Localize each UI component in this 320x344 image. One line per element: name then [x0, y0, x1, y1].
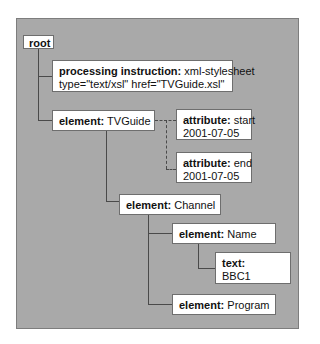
node-attr-start-kind: attribute:	[183, 114, 231, 126]
connector-name-trunk	[198, 243, 199, 269]
connector-tvguide-attr-end	[166, 169, 176, 170]
node-element-channel: element: Channel	[119, 194, 221, 215]
connector-root-tvguide	[38, 120, 52, 121]
node-attribute-start: attribute: start 2001-07-05	[176, 109, 252, 140]
node-channel-value: Channel	[174, 199, 215, 211]
node-attr-start-name: start	[234, 114, 255, 126]
node-program-kind: element:	[179, 299, 224, 311]
connector-channel-name	[148, 233, 172, 234]
node-name-kind: element:	[179, 228, 224, 240]
node-element-tvguide: element: TVGuide	[52, 110, 155, 131]
node-root-label: root	[29, 37, 50, 49]
node-element-name: element: Name	[172, 223, 276, 244]
node-attr-end-kind: attribute:	[183, 157, 231, 169]
node-attr-end-value: 2001-07-05	[183, 170, 245, 183]
connector-root-pi	[38, 76, 52, 77]
node-element-program: element: Program	[172, 294, 276, 315]
connector-tvguide-attr-trunk	[166, 120, 167, 169]
connector-tvguide-trunk	[106, 130, 107, 202]
node-attribute-end: attribute: end 2001-07-05	[176, 152, 252, 183]
node-name-value: Name	[227, 228, 256, 240]
node-pi-value-2: type="text/xsl" href="TVGuide.xsl"	[59, 78, 226, 91]
node-tvguide-value: TVGuide	[107, 115, 150, 127]
connector-root-trunk	[38, 48, 39, 121]
node-tvguide-kind: element:	[59, 115, 104, 127]
node-text-kind: text:	[222, 257, 245, 269]
connector-channel-trunk	[148, 214, 149, 305]
node-pi-value: xml-stylesheet	[184, 65, 254, 77]
node-program-value: Program	[227, 299, 269, 311]
node-pi-kind: processing instruction:	[59, 65, 181, 77]
node-text: text: BBC1	[215, 252, 291, 284]
node-attr-start-value: 2001-07-05	[183, 127, 245, 140]
node-root: root	[23, 35, 54, 49]
node-text-value: BBC1	[222, 270, 284, 283]
connector-channel-program	[148, 304, 172, 305]
connector-tvguide-channel	[106, 201, 120, 202]
node-attr-end-name: end	[234, 157, 252, 169]
connector-name-text	[198, 268, 215, 269]
node-processing-instruction: processing instruction: xml-stylesheet t…	[52, 60, 233, 92]
node-channel-kind: element:	[126, 199, 171, 211]
